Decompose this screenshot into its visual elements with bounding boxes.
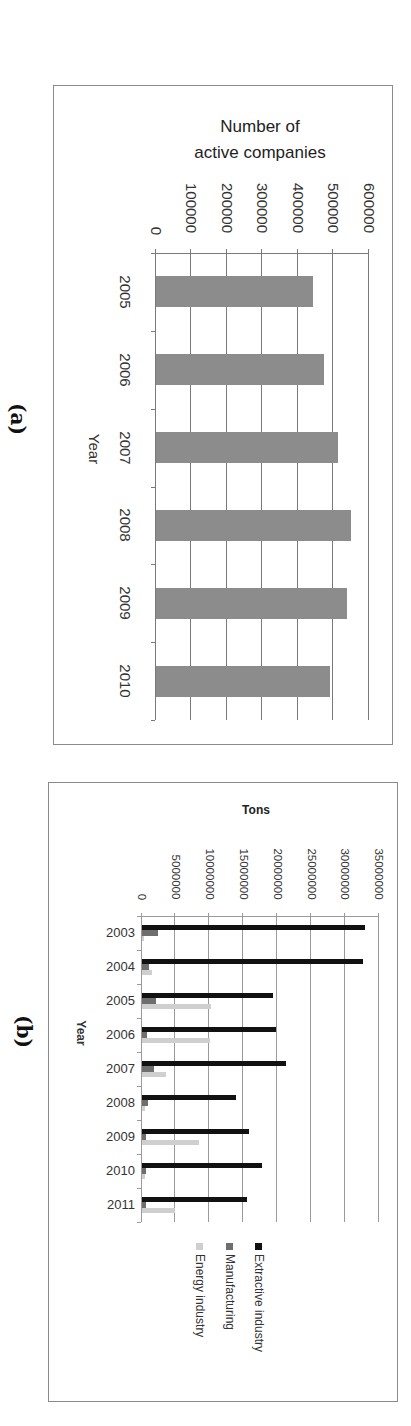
panel-a-title-line-2: active companies bbox=[180, 140, 340, 166]
value-tick-label: 100000 bbox=[182, 173, 200, 243]
value-tick-label: 200000 bbox=[218, 173, 236, 243]
gridline bbox=[378, 916, 379, 1222]
category-label: 2008 bbox=[116, 503, 134, 547]
bar-2007-extractive-industry bbox=[142, 1061, 286, 1067]
category-label: 2008 bbox=[95, 1095, 135, 1111]
category-tick-mark bbox=[151, 564, 155, 565]
category-label: 2009 bbox=[116, 581, 134, 625]
gridline bbox=[332, 253, 333, 720]
bar-2004-extractive-industry bbox=[142, 959, 363, 965]
gridline bbox=[368, 253, 369, 720]
bar-2011-energy-industry bbox=[142, 1208, 175, 1214]
category-tick-mark bbox=[137, 1188, 141, 1189]
panel-b-value-axis-title: Tons bbox=[236, 803, 276, 819]
bar-2007-energy-industry bbox=[142, 1072, 166, 1078]
gridline bbox=[261, 253, 262, 720]
value-tick-label: 600000 bbox=[360, 173, 378, 243]
bar-2003-manufacturing bbox=[142, 930, 159, 936]
panel-a-label: (a) bbox=[4, 403, 30, 433]
bar-2009-energy-industry bbox=[142, 1140, 200, 1146]
legend-item: Manufacturing bbox=[221, 1243, 237, 1383]
category-label: 2006 bbox=[95, 1027, 135, 1043]
category-label: 2010 bbox=[116, 659, 134, 703]
category-label: 2007 bbox=[116, 426, 134, 470]
bar-2008-extractive-industry bbox=[142, 1095, 236, 1101]
category-label: 2005 bbox=[116, 270, 134, 314]
value-tick-label: 35000000 bbox=[371, 839, 385, 909]
legend-swatch bbox=[196, 1243, 203, 1250]
category-tick-mark bbox=[151, 253, 155, 254]
value-tick-label: 500000 bbox=[324, 173, 342, 243]
value-tick-label: 10000000 bbox=[202, 839, 216, 909]
bar-2009 bbox=[156, 588, 347, 619]
value-tick-label: 5000000 bbox=[168, 842, 182, 912]
bar-2006-extractive-industry bbox=[142, 1027, 277, 1033]
category-label: 2004 bbox=[95, 959, 135, 975]
value-tick-label: 400000 bbox=[289, 173, 307, 243]
category-tick-mark bbox=[137, 1120, 141, 1121]
value-axis-line bbox=[141, 916, 379, 917]
bar-2010-extractive-industry bbox=[142, 1163, 262, 1169]
value-tick-label: 25000000 bbox=[304, 839, 318, 909]
category-tick-mark bbox=[137, 1018, 141, 1019]
bar-2003-extractive-industry bbox=[142, 925, 366, 931]
category-label: 2007 bbox=[95, 1061, 135, 1077]
category-label: 2005 bbox=[95, 993, 135, 1009]
category-tick-mark bbox=[151, 409, 155, 410]
category-tick-mark bbox=[151, 487, 155, 488]
category-label: 2010 bbox=[95, 1163, 135, 1179]
panel-a-title-line-1: Number of bbox=[180, 114, 340, 140]
legend-swatch bbox=[226, 1243, 233, 1250]
category-tick-mark bbox=[137, 916, 141, 917]
bar-2011-extractive-industry bbox=[142, 1197, 247, 1203]
category-label: 2009 bbox=[95, 1129, 135, 1145]
value-axis-line bbox=[155, 253, 369, 254]
category-tick-mark bbox=[137, 1154, 141, 1155]
bar-2009-extractive-industry bbox=[142, 1129, 250, 1135]
bar-2007 bbox=[156, 432, 338, 463]
bar-2006-energy-industry bbox=[142, 1038, 210, 1044]
panel-a-xaxis-title: Year bbox=[85, 429, 103, 469]
bar-2005-extractive-industry bbox=[142, 993, 274, 999]
category-label: 2003 bbox=[95, 925, 135, 941]
legend-label: Manufacturing bbox=[223, 1254, 237, 1330]
value-tick-label: 300000 bbox=[253, 173, 271, 243]
category-label: 2006 bbox=[116, 348, 134, 392]
legend-label: Extractive industry bbox=[252, 1254, 266, 1352]
bar-2005 bbox=[156, 276, 313, 307]
bar-2006 bbox=[156, 354, 324, 385]
category-tick-mark bbox=[137, 1086, 141, 1087]
panel-b-xaxis-title: Year bbox=[72, 1015, 88, 1051]
bar-2003-energy-industry bbox=[142, 936, 144, 942]
legend-swatch bbox=[255, 1243, 262, 1250]
category-label: 2011 bbox=[95, 1197, 135, 1213]
category-tick-mark bbox=[137, 1052, 141, 1053]
bar-2004-energy-industry bbox=[142, 970, 152, 976]
tick-mark bbox=[137, 1222, 141, 1223]
category-tick-mark bbox=[151, 642, 155, 643]
legend-item: Extractive industry bbox=[250, 1243, 266, 1383]
tick-mark bbox=[151, 720, 155, 721]
bar-2008-energy-industry bbox=[142, 1106, 145, 1112]
legend-label: Energy industry bbox=[193, 1254, 207, 1337]
gridline bbox=[297, 253, 298, 720]
value-tick-label: 30000000 bbox=[337, 839, 351, 909]
value-tick-label: 15000000 bbox=[236, 839, 250, 909]
category-tick-mark bbox=[151, 331, 155, 332]
category-tick-mark bbox=[137, 984, 141, 985]
panel-b-label: (b) bbox=[10, 1015, 36, 1045]
bar-2008 bbox=[156, 510, 351, 541]
panel-a-title: Number of active companies bbox=[180, 114, 340, 166]
gridline bbox=[226, 253, 227, 720]
value-tick-label: 20000000 bbox=[270, 839, 284, 909]
value-tick-label: 0 bbox=[147, 196, 165, 266]
bar-2005-energy-industry bbox=[142, 1004, 212, 1010]
gridline bbox=[155, 253, 156, 720]
bar-2010-energy-industry bbox=[142, 1174, 145, 1180]
gridline bbox=[190, 253, 191, 720]
bar-2010 bbox=[156, 666, 330, 697]
legend-item: Energy industry bbox=[191, 1243, 207, 1383]
category-tick-mark bbox=[137, 950, 141, 951]
